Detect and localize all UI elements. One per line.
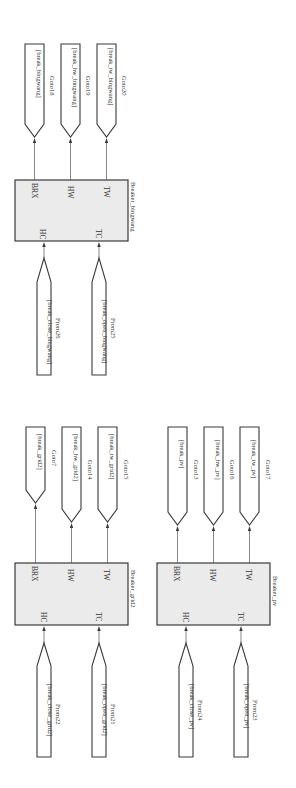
- subsystem-name-label: Breaker_pv: [272, 576, 279, 607]
- from-tag-label: [break_open_pv]: [243, 684, 251, 728]
- input-port-tc: TC: [94, 229, 103, 239]
- subsystem-breaker-grid2[interactable]: BRX HW TW HC TC Breaker_grid2: [15, 563, 137, 625]
- from-block-from24[interactable]: [break_close_pv] From24: [179, 643, 204, 757]
- from-tag-label: [break_close_pv]: [188, 684, 196, 729]
- from-block-from22[interactable]: [break_close_grid2] From22: [37, 643, 62, 757]
- arrow-head-icon: [33, 138, 36, 143]
- from-name-label: From24: [197, 700, 204, 721]
- goto-name-label: Goto17: [265, 460, 272, 480]
- goto-name-label: Goto16: [229, 460, 236, 480]
- goto-block-goto7[interactable]: [break_grid2] Goto7: [26, 427, 58, 503]
- arrow-head-icon: [34, 504, 37, 509]
- goto-block-goto17[interactable]: [break_tw_pv] Goto17: [240, 427, 272, 525]
- from-block-from23[interactable]: [break_open_pv] From23: [234, 643, 259, 757]
- arrow-head-icon: [97, 626, 100, 631]
- group-breaker-bingwang: [break_bingwang] Goto18 [break_hw_bingwa…: [15, 44, 137, 375]
- output-port-hw: HW: [66, 569, 75, 582]
- output-port-tw: TW: [102, 569, 111, 582]
- goto-tag-label: [break_hw_pv]: [214, 440, 222, 480]
- arrow-head-icon: [70, 523, 73, 528]
- subsystem-breaker-pv[interactable]: BRX HW TW HC TC Breaker_pv: [157, 563, 279, 625]
- from-name-label: From23: [252, 700, 259, 721]
- from-block-from21[interactable]: [break_open_grid2] From21: [92, 643, 117, 757]
- output-port-tw: TW: [102, 186, 111, 199]
- arrow-head-icon: [248, 526, 251, 531]
- goto-name-label: Goto13: [193, 460, 200, 480]
- group-breaker-pv: [break_pv] Goto13 [break_hw_pv] Goto16 […: [157, 427, 279, 757]
- goto-block-goto16[interactable]: [break_hw_pv] Goto16: [204, 427, 236, 525]
- goto-tag-label: [break_tw_pv]: [250, 440, 258, 478]
- from-tag-label: [break_open_grid2]: [101, 684, 109, 736]
- input-port-tc: TC: [94, 612, 103, 622]
- goto-name-label: Goto20: [121, 76, 128, 96]
- output-port-brx: BRX: [172, 566, 181, 582]
- arrow-head-icon: [105, 138, 108, 143]
- subsystem-name-label: Breaker_grid2: [130, 570, 137, 608]
- arrow-head-icon: [239, 626, 242, 631]
- from-block-from25[interactable]: [break_open_bingwang] From25: [92, 258, 117, 375]
- from-tag-label: [break_close_bingwang]: [46, 300, 54, 364]
- goto-tag-label: [break_bingwang]: [35, 50, 43, 98]
- arrow-head-icon: [42, 626, 45, 631]
- from-name-label: From21: [110, 704, 117, 725]
- group-breaker-grid2: [break_grid2] Goto7 [break_hw_grid2] Got…: [15, 427, 137, 757]
- from-name-label: From25: [110, 318, 117, 339]
- goto-block-goto20[interactable]: [break_tw_bingwang] Goto20: [97, 44, 128, 137]
- goto-block-goto18[interactable]: [break_bingwang] Goto18: [25, 44, 56, 137]
- output-port-tw: TW: [244, 569, 253, 582]
- from-tag-label: [break_close_grid2]: [46, 684, 54, 736]
- arrow-head-icon: [176, 526, 179, 531]
- goto-tag-label: [break_pv]: [178, 440, 186, 469]
- from-tag-label: [break_open_bingwang]: [101, 300, 109, 364]
- goto-name-label: Goto7: [51, 450, 58, 467]
- from-block-from26[interactable]: [break_close_bingwang] From26: [37, 258, 62, 375]
- goto-block-goto14[interactable]: [break_hw_grid2] Goto14: [62, 427, 94, 522]
- output-port-brx: BRX: [30, 566, 39, 582]
- arrow-head-icon: [42, 242, 45, 247]
- output-port-hw: HW: [208, 569, 217, 582]
- goto-name-label: Goto19: [85, 76, 92, 96]
- output-port-hw: HW: [66, 186, 75, 199]
- goto-tag-label: [break_hw_bingwang]: [71, 48, 79, 107]
- from-name-label: From26: [55, 318, 62, 339]
- arrow-head-icon: [106, 523, 109, 528]
- subsystem-name-label: Breaker_bingwang: [130, 182, 137, 232]
- input-port-tc: TC: [236, 612, 245, 622]
- goto-tag-label: [break_tw_grid2]: [108, 434, 116, 479]
- arrow-head-icon: [69, 138, 72, 143]
- output-port-brx: BRX: [30, 183, 39, 199]
- input-port-hc: HC: [38, 229, 47, 239]
- goto-block-goto15[interactable]: [break_tw_grid2] Goto15: [98, 427, 130, 522]
- goto-tag-label: [break_tw_bingwang]: [107, 48, 115, 105]
- arrow-head-icon: [97, 242, 100, 247]
- arrow-head-icon: [212, 526, 215, 531]
- goto-block-goto19[interactable]: [break_hw_bingwang] Goto19: [61, 44, 92, 137]
- goto-name-label: Goto14: [87, 460, 94, 480]
- from-name-label: From22: [55, 704, 62, 725]
- goto-tag-label: [break_grid2]: [36, 434, 44, 470]
- goto-name-label: Goto15: [123, 460, 130, 480]
- simulink-diagram: [break_bingwang] Goto18 [break_hw_bingwa…: [0, 0, 296, 788]
- input-port-hc: HC: [181, 612, 190, 622]
- goto-tag-label: [break_hw_grid2]: [72, 434, 80, 481]
- input-port-hc: HC: [39, 612, 48, 622]
- goto-name-label: Goto18: [49, 76, 56, 96]
- subsystem-breaker-bingwang[interactable]: BRX HW TW HC TC Breaker_bingwang: [15, 180, 137, 241]
- goto-block-goto13[interactable]: [break_pv] Goto13: [168, 427, 200, 525]
- arrow-head-icon: [184, 626, 187, 631]
